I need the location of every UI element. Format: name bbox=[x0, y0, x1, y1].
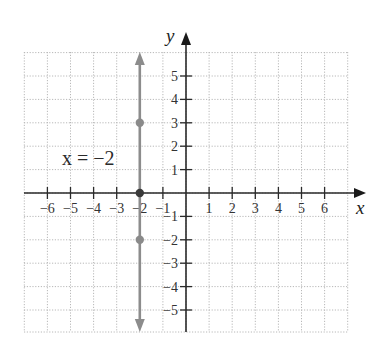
axes: x y bbox=[24, 25, 366, 332]
x-tick-label: 4 bbox=[275, 201, 282, 216]
y-tick-label: −1 bbox=[163, 209, 178, 224]
x-tick-label: 5 bbox=[298, 201, 305, 216]
coordinate-plane: x y −6−5−4−3−2−112345654321−1−2−3−4−5 x … bbox=[0, 0, 390, 355]
y-tick-label: −4 bbox=[163, 280, 178, 295]
data-point bbox=[136, 236, 144, 244]
y-tick-label: 1 bbox=[171, 163, 178, 178]
y-tick-label: 2 bbox=[171, 139, 178, 154]
x-tick-label: 1 bbox=[206, 201, 213, 216]
y-tick-label: −3 bbox=[163, 256, 178, 271]
x-tick-label: −4 bbox=[86, 201, 101, 216]
y-tick-label: −2 bbox=[163, 233, 178, 248]
y-axis-arrow-icon bbox=[181, 32, 191, 45]
y-axis-label: y bbox=[164, 25, 175, 46]
line-arrow-up-icon bbox=[135, 52, 145, 65]
x-tick-label: 2 bbox=[229, 201, 236, 216]
equation-label: x = −2 bbox=[62, 147, 115, 169]
x-tick-label: −3 bbox=[109, 201, 124, 216]
x-tick-label: 6 bbox=[321, 201, 328, 216]
y-tick-label: 5 bbox=[171, 69, 178, 84]
series bbox=[135, 52, 145, 332]
x-axis-label: x bbox=[355, 197, 365, 218]
x-tick-label: 3 bbox=[252, 201, 259, 216]
x-tick-label: −6 bbox=[40, 201, 55, 216]
data-point bbox=[136, 189, 144, 197]
line-arrow-down-icon bbox=[135, 319, 145, 332]
x-tick-label: −5 bbox=[63, 201, 78, 216]
y-tick-label: 3 bbox=[171, 116, 178, 131]
y-tick-label: 4 bbox=[171, 92, 178, 107]
y-tick-label: −5 bbox=[163, 303, 178, 318]
data-point bbox=[136, 119, 144, 127]
